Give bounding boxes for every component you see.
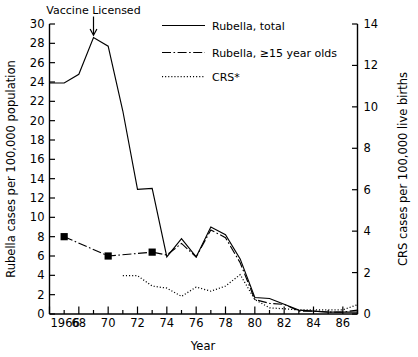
y-right-tick-label: 2 bbox=[364, 266, 371, 280]
rubella-crs-incidence-chart: 024681012141618202224262830 02468101214 … bbox=[0, 0, 418, 357]
y-left-tick-label: 8 bbox=[37, 230, 44, 244]
y-left-tick-label: 30 bbox=[30, 17, 45, 31]
x-tick-label: 82 bbox=[277, 316, 292, 330]
y-right-tick-label: 4 bbox=[364, 224, 371, 238]
y-left-tick-label: 0 bbox=[37, 307, 44, 321]
legend-item-rubella-total: Rubella, total bbox=[162, 20, 285, 33]
y-left-tick-label: 10 bbox=[30, 210, 45, 224]
y-right-tick-label: 14 bbox=[364, 17, 379, 31]
y-right-tick-label: 12 bbox=[364, 58, 379, 72]
y-right-tick-label: 6 bbox=[364, 183, 371, 197]
y-left-tick-label: 4 bbox=[37, 268, 44, 282]
y-left-tick-label: 2 bbox=[37, 288, 44, 302]
y-left-tick-label: 24 bbox=[30, 75, 45, 89]
y-left-tick-label: 16 bbox=[30, 152, 45, 166]
series-marker-square bbox=[149, 249, 156, 256]
x-tick-label: 86 bbox=[336, 316, 351, 330]
y-left-tick-label: 14 bbox=[30, 172, 45, 186]
y-right-tick-label: 8 bbox=[364, 141, 371, 155]
x-tick-label: 70 bbox=[101, 316, 116, 330]
x-tick-label: 78 bbox=[218, 316, 233, 330]
data-series-group bbox=[50, 38, 358, 313]
chart-legend: Rubella, total Rubella, ≥15 year olds CR… bbox=[162, 20, 337, 84]
y-left-tick-label: 20 bbox=[30, 114, 45, 128]
y-left-tick-label: 22 bbox=[30, 94, 45, 108]
vaccine-licensed-label: Vaccine Licensed bbox=[46, 4, 140, 17]
y-right-tick-label: 0 bbox=[364, 307, 371, 321]
series-marker-square bbox=[105, 252, 112, 259]
legend-item-crs: CRS* bbox=[162, 71, 240, 84]
y-left-tick-label: 6 bbox=[37, 249, 44, 263]
vaccine-licensed-annotation: Vaccine Licensed bbox=[46, 4, 140, 35]
x-tick-label: 76 bbox=[189, 316, 204, 330]
series-rubella-over15-markers bbox=[61, 233, 156, 260]
series-marker-square bbox=[61, 233, 68, 240]
chart-canvas: 024681012141618202224262830 02468101214 … bbox=[0, 0, 418, 357]
legend-item-rubella-over15: Rubella, ≥15 year olds bbox=[162, 47, 337, 60]
x-tick-label: 74 bbox=[160, 316, 175, 330]
series-rubella-over15-line bbox=[64, 230, 357, 312]
y-left-tick-label: 28 bbox=[30, 36, 45, 50]
y-axis-left-ticks: 024681012141618202224262830 bbox=[30, 17, 55, 321]
legend-label-rubella-over15: Rubella, ≥15 year olds bbox=[212, 47, 337, 60]
series-crs-line bbox=[123, 275, 358, 310]
x-axis-ticks: 196668707274767880828486 bbox=[50, 307, 358, 331]
vaccine-licensed-arrow-icon bbox=[90, 17, 97, 36]
x-tick-label: 84 bbox=[306, 316, 321, 330]
y-axis-left-title: Rubella cases per 100,000 population bbox=[4, 60, 18, 277]
y-right-tick-label: 10 bbox=[364, 100, 379, 114]
x-tick-label: 68 bbox=[72, 316, 87, 330]
x-axis-title: Year bbox=[190, 339, 216, 353]
x-tick-label: 80 bbox=[248, 316, 263, 330]
legend-label-crs: CRS* bbox=[212, 71, 240, 84]
y-axis-right-title: CRS cases per 100,000 live births bbox=[396, 72, 410, 266]
series-rubella-total-line bbox=[50, 38, 358, 313]
y-left-tick-label: 18 bbox=[30, 133, 45, 147]
plot-axes bbox=[50, 24, 358, 314]
y-left-tick-label: 26 bbox=[30, 56, 45, 70]
y-left-tick-label: 12 bbox=[30, 191, 45, 205]
legend-label-rubella-total: Rubella, total bbox=[212, 20, 285, 33]
x-tick-label: 72 bbox=[130, 316, 145, 330]
y-axis-right-ticks: 02468101214 bbox=[352, 17, 378, 321]
